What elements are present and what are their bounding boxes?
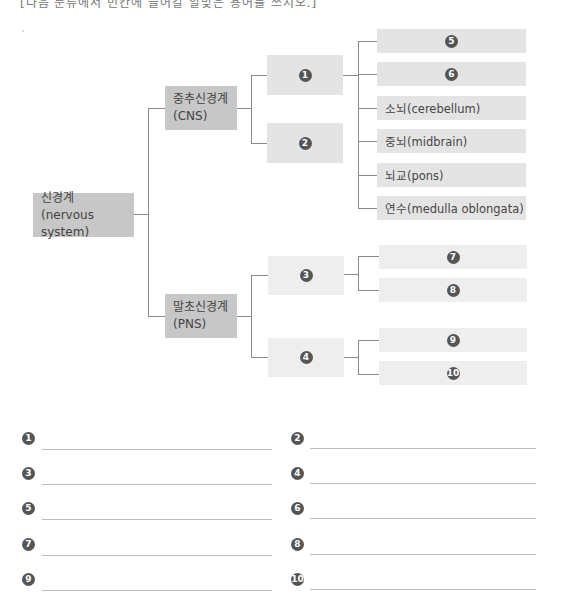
connector bbox=[358, 108, 377, 109]
connector bbox=[358, 141, 377, 142]
connector bbox=[358, 41, 377, 42]
marker-5: 5 bbox=[445, 35, 458, 48]
connector bbox=[237, 108, 251, 109]
connector bbox=[148, 316, 165, 317]
cns-title: 중추신경계 bbox=[173, 91, 228, 108]
answer-line-8[interactable] bbox=[310, 554, 536, 555]
blank-box-4: 4 bbox=[268, 338, 344, 377]
decorative-dot bbox=[22, 30, 24, 32]
connector bbox=[148, 108, 165, 109]
answer-line-3[interactable] bbox=[42, 484, 272, 485]
instruction-text-clipped: [다음 분류에서 빈칸에 들어갈 알맞은 용어를 쓰시오.] bbox=[20, 0, 317, 10]
connector bbox=[251, 357, 268, 358]
connector bbox=[358, 340, 359, 375]
answer-marker-9: 9 bbox=[22, 573, 35, 586]
answer-line-2[interactable] bbox=[310, 448, 536, 449]
brain-part-medulla: 연수(medulla oblongata) bbox=[377, 196, 526, 220]
pns-node: 말초신경계 (PNS) bbox=[165, 294, 237, 338]
marker-8: 8 bbox=[447, 284, 460, 297]
blank-box-10: 10 bbox=[379, 361, 527, 385]
marker-9: 9 bbox=[447, 334, 460, 347]
connector bbox=[358, 290, 379, 291]
blank-box-2: 2 bbox=[267, 123, 343, 163]
brain-part-label: 뇌교(pons) bbox=[385, 167, 444, 183]
connector bbox=[358, 41, 359, 209]
connector bbox=[358, 208, 377, 209]
connector bbox=[251, 275, 252, 358]
blank-box-8: 8 bbox=[379, 278, 527, 302]
connector bbox=[134, 214, 148, 215]
marker-3: 3 bbox=[300, 269, 313, 282]
blank-box-6: 6 bbox=[377, 62, 526, 86]
brain-part-pons: 뇌교(pons) bbox=[377, 163, 526, 187]
brain-part-cerebellum: 소뇌(cerebellum) bbox=[377, 96, 526, 120]
answer-line-6[interactable] bbox=[310, 518, 536, 519]
connector bbox=[358, 175, 377, 176]
connector bbox=[251, 75, 267, 76]
connector bbox=[358, 74, 377, 75]
connector bbox=[358, 256, 379, 257]
blank-box-1: 1 bbox=[267, 55, 343, 95]
blank-box-3: 3 bbox=[268, 256, 344, 295]
answer-marker-4: 4 bbox=[291, 467, 304, 480]
brain-part-label: 중뇌(midbrain) bbox=[385, 133, 467, 149]
connector bbox=[251, 143, 267, 144]
connector bbox=[237, 316, 251, 317]
answer-marker-3: 3 bbox=[22, 467, 35, 480]
answer-marker-5: 5 bbox=[22, 502, 35, 515]
cns-subtitle: (CNS) bbox=[173, 108, 228, 125]
brain-part-label: 연수(medulla oblongata) bbox=[385, 200, 524, 216]
blank-box-9: 9 bbox=[379, 328, 527, 352]
answer-line-4[interactable] bbox=[310, 483, 536, 484]
blank-box-5: 5 bbox=[377, 29, 526, 53]
marker-4: 4 bbox=[300, 351, 313, 364]
root-node-nervous-system: 신경계 (nervous system) bbox=[33, 193, 134, 237]
connector bbox=[358, 340, 379, 341]
marker-10: 10 bbox=[447, 367, 460, 380]
cns-node: 중추신경계 (CNS) bbox=[165, 86, 237, 130]
connector bbox=[344, 357, 358, 358]
connector bbox=[358, 374, 379, 375]
pns-subtitle: (PNS) bbox=[173, 316, 228, 333]
root-title: 신경계 bbox=[41, 190, 134, 207]
marker-6: 6 bbox=[445, 68, 458, 81]
connector bbox=[148, 108, 149, 317]
connector bbox=[251, 75, 252, 143]
answer-marker-10: 10 bbox=[291, 573, 304, 586]
answer-line-1[interactable] bbox=[42, 449, 272, 450]
marker-7: 7 bbox=[447, 251, 460, 264]
answer-marker-6: 6 bbox=[291, 502, 304, 515]
marker-1: 1 bbox=[299, 69, 312, 82]
connector bbox=[358, 256, 359, 291]
answer-line-10[interactable] bbox=[310, 589, 536, 590]
answer-marker-7: 7 bbox=[22, 538, 35, 551]
connector bbox=[344, 274, 358, 275]
answer-marker-2: 2 bbox=[291, 432, 304, 445]
answer-marker-1: 1 bbox=[22, 432, 35, 445]
answer-marker-8: 8 bbox=[291, 538, 304, 551]
marker-2: 2 bbox=[299, 137, 312, 150]
answer-line-5[interactable] bbox=[42, 519, 272, 520]
connector bbox=[251, 275, 268, 276]
answer-line-7[interactable] bbox=[42, 555, 272, 556]
brain-part-label: 소뇌(cerebellum) bbox=[385, 100, 480, 116]
connector bbox=[343, 75, 358, 76]
pns-title: 말초신경계 bbox=[173, 299, 228, 316]
brain-part-midbrain: 중뇌(midbrain) bbox=[377, 129, 526, 153]
answer-line-9[interactable] bbox=[42, 590, 272, 591]
blank-box-7: 7 bbox=[379, 245, 527, 269]
root-subtitle: (nervous system) bbox=[41, 207, 134, 241]
